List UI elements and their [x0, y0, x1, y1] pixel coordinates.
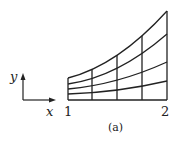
y-axis-label: y	[9, 69, 18, 84]
x-axis-label: x	[46, 104, 54, 119]
x-axis-arrowhead-icon	[49, 98, 56, 103]
grid-diagram: y x 1 2 (a)	[0, 0, 181, 145]
tick-label-right: 2	[161, 104, 169, 119]
y-axis-arrowhead-icon	[21, 73, 26, 80]
figure-caption: (a)	[108, 121, 123, 134]
tick-label-left: 1	[64, 104, 72, 119]
axes-glyph	[21, 73, 57, 103]
